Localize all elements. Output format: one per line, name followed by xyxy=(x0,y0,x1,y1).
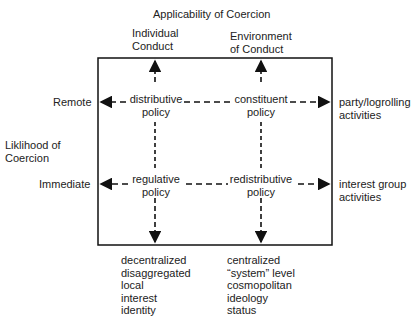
column-label-line: Individual xyxy=(132,27,178,40)
diagram-lines xyxy=(0,0,419,317)
outcome-line: decentralized xyxy=(121,254,191,267)
rows-axis-line: Coercion xyxy=(5,152,61,165)
cell-line: distributive xyxy=(120,93,192,106)
outcome-line: disaggregated xyxy=(121,267,191,280)
rows-axis-label: Liklihood of Coercion xyxy=(5,139,61,164)
column-label-line: Environment xyxy=(230,30,292,43)
outcome-line: activities xyxy=(339,109,411,122)
outcome-centralized-list: centralized “system” level cosmopolitan … xyxy=(227,254,295,317)
outcome-line: interest group xyxy=(339,178,406,191)
cell-line: regulative xyxy=(124,173,188,186)
cell-line: policy xyxy=(124,186,188,199)
cell-line: policy xyxy=(222,186,300,199)
row-label-remote: Remote xyxy=(53,96,92,109)
cell-constituent-policy: constituent policy xyxy=(224,93,298,118)
cell-redistributive-policy: redistributive policy xyxy=(222,173,300,198)
outcome-line: cosmopolitan xyxy=(227,279,295,292)
cell-distributive-policy: distributive policy xyxy=(120,93,192,118)
outcome-line: “system” level xyxy=(227,267,295,280)
outcome-line: party/logrolling xyxy=(339,96,411,109)
column-label-individual: Individual Conduct xyxy=(132,27,178,52)
column-label-environment: Environment of Conduct xyxy=(230,30,292,55)
outcome-decentralized-list: decentralized disaggregated local intere… xyxy=(121,254,191,317)
cell-line: redistributive xyxy=(222,173,300,186)
outcome-line: activities xyxy=(339,191,406,204)
cell-line: constituent xyxy=(224,93,298,106)
outcome-line: identity xyxy=(121,304,191,317)
column-label-line: of Conduct xyxy=(230,43,292,56)
column-label-line: Conduct xyxy=(132,40,178,53)
outcome-line: centralized xyxy=(227,254,295,267)
outcome-line: local xyxy=(121,279,191,292)
row-label-immediate: Immediate xyxy=(39,178,90,191)
cell-regulative-policy: regulative policy xyxy=(124,173,188,198)
outcome-line: ideology xyxy=(227,292,295,305)
typology-frame xyxy=(98,58,332,245)
outcome-line: status xyxy=(227,304,295,317)
cell-line: policy xyxy=(224,106,298,119)
outcome-line: interest xyxy=(121,292,191,305)
rows-axis-line: Liklihood of xyxy=(5,139,61,152)
outcome-party-logrolling: party/logrolling activities xyxy=(339,96,411,121)
outcome-interest-group: interest group activities xyxy=(339,178,406,203)
diagram-title: Applicability of Coercion xyxy=(153,8,270,21)
cell-line: policy xyxy=(120,106,192,119)
